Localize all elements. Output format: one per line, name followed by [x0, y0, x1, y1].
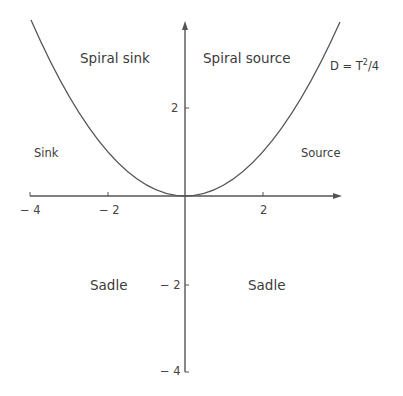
y-tick-2: 2 [171, 101, 178, 115]
region-spiral-source: Spiral source [203, 50, 291, 66]
region-saddle-right: Sadle [248, 277, 285, 293]
x-axis-arrow-icon [333, 193, 342, 199]
y-axis-arrow-icon [182, 21, 188, 30]
y-tick-minus2: − 2 [160, 278, 181, 292]
curve-label: D = T2/4 [330, 58, 379, 73]
region-source: Source [301, 146, 341, 160]
x-tick-2: 2 [260, 203, 267, 217]
x-tick-minus4: − 4 [20, 203, 41, 217]
x-tick-minus2: − 2 [99, 203, 120, 217]
region-saddle-left: Sadle [90, 277, 127, 293]
curve-label-base: D = T [330, 59, 363, 73]
region-sink: Sink [34, 146, 58, 160]
curve-label-tail: /4 [368, 59, 379, 73]
y-tick-minus4: − 4 [160, 364, 181, 378]
region-spiral-sink: Spiral sink [80, 50, 150, 66]
